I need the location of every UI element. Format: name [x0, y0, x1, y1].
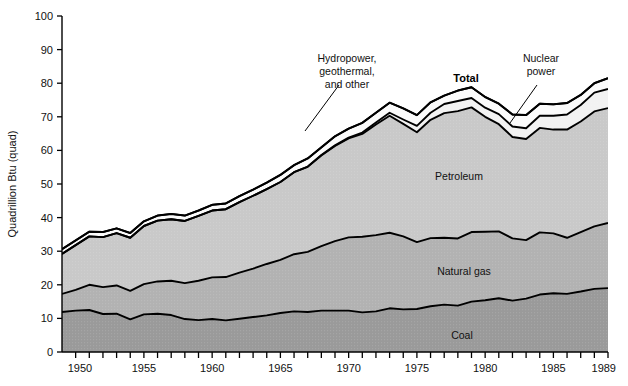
y-tick-label-10: 10 — [41, 312, 53, 324]
x-tick-label-1950: 1950 — [68, 362, 92, 374]
y-tick-label-70: 70 — [41, 111, 53, 123]
stacked-area-chart: 0102030405060708090100 19501955196019651… — [0, 0, 628, 386]
x-tick-label-1989: 1989 — [592, 362, 616, 374]
y-tick-label-60: 60 — [41, 144, 53, 156]
coal-label: Coal — [451, 329, 473, 341]
hydro-annotation-line-2: and other — [325, 78, 370, 90]
x-tick-label-1985: 1985 — [541, 362, 565, 374]
petroleum-label: Petroleum — [435, 170, 483, 182]
chart-figure: 0102030405060708090100 19501955196019651… — [0, 0, 628, 386]
total-annotation: Total — [453, 72, 478, 84]
nuclear-annotation: Nuclearpower — [523, 52, 560, 77]
x-tick-label-1955: 1955 — [132, 362, 156, 374]
x-tick-label-1965: 1965 — [268, 362, 292, 374]
y-tick-label-30: 30 — [41, 245, 53, 257]
y-tick-label-50: 50 — [41, 178, 53, 190]
y-tick-label-40: 40 — [41, 212, 53, 224]
x-tick-label-1975: 1975 — [405, 362, 429, 374]
y-tick-label-20: 20 — [41, 279, 53, 291]
total-annotation-line-0: Total — [453, 72, 478, 84]
y-tick-label-0: 0 — [47, 346, 53, 358]
nuclear-annotation-line-0: Nuclear — [523, 52, 560, 64]
y-tick-label-80: 80 — [41, 77, 53, 89]
x-tick-label-1980: 1980 — [473, 362, 497, 374]
natural-gas-label: Natural gas — [437, 265, 491, 277]
hydro-annotation-line-1: geothermal, — [319, 65, 374, 77]
x-tick-label-1960: 1960 — [200, 362, 224, 374]
x-tick-label-1970: 1970 — [336, 362, 360, 374]
y-axis-title: Quadrillion Btu (quad) — [6, 130, 18, 237]
hydro-annotation: Hydropower,geothermal,and other — [318, 52, 377, 90]
y-tick-label-100: 100 — [35, 10, 53, 22]
nuclear-annotation-line-1: power — [527, 65, 556, 77]
y-tick-label-90: 90 — [41, 44, 53, 56]
hydro-annotation-line-0: Hydropower, — [318, 52, 377, 64]
